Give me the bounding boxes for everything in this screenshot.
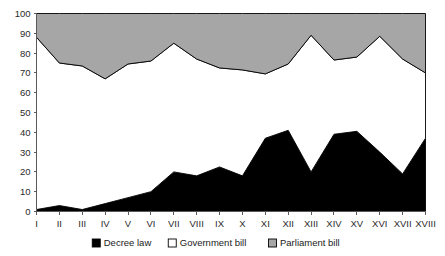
- x-axis-tick-label: XIV: [326, 218, 342, 229]
- stacked-area-chart: 0102030405060708090100 IIIIIIIVVVIVIIVII…: [0, 0, 445, 256]
- x-axis-tick-label: IV: [101, 218, 111, 229]
- y-axis-tick-label: 80: [20, 48, 31, 59]
- legend-label: Government bill: [180, 237, 247, 248]
- legend-swatch: [92, 239, 100, 247]
- y-axis-tick-label: 20: [20, 166, 31, 177]
- x-axis-tick-label: XV: [351, 218, 364, 229]
- x-axis-tick-label: XVII: [394, 218, 412, 229]
- x-axis-tick-label: V: [125, 218, 132, 229]
- x-axis-tick-label: VIII: [190, 218, 204, 229]
- legend-swatch: [269, 239, 277, 247]
- legend-item[interactable]: Government bill: [168, 237, 246, 248]
- x-axis-tick-label: VII: [168, 218, 180, 229]
- y-axis-tick-label: 70: [20, 67, 31, 78]
- x-axis-tick-label: VI: [146, 218, 155, 229]
- legend-swatch: [168, 239, 176, 247]
- x-axis-tick-label: I: [35, 218, 38, 229]
- y-axis-tick-label: 100: [15, 8, 31, 19]
- x-axis-tick-label: XI: [261, 218, 270, 229]
- x-axis-tick-label: X: [239, 218, 246, 229]
- y-axis-tick-label: 0: [25, 206, 30, 217]
- y-axis-tick-label: 60: [20, 87, 31, 98]
- x-axis-tick-label: XII: [282, 218, 294, 229]
- x-axis-tick-label: II: [57, 218, 62, 229]
- legend-label: Parliament bill: [280, 237, 340, 248]
- y-axis-tick-label: 90: [20, 28, 31, 39]
- legend-item[interactable]: Parliament bill: [269, 237, 340, 248]
- x-axis-tick-label: IX: [215, 218, 225, 229]
- plot-area: [37, 14, 426, 212]
- x-axis-tick-label: III: [78, 218, 86, 229]
- x-axis-tick-label: XVIII: [415, 218, 436, 229]
- y-axis-tick-label: 10: [20, 186, 31, 197]
- y-axis-tick-label: 30: [20, 147, 31, 158]
- y-axis-tick-label: 50: [20, 107, 31, 118]
- x-axis-tick-label: XIII: [304, 218, 318, 229]
- legend-label: Decree law: [104, 237, 152, 248]
- y-axis-tick-label: 40: [20, 127, 31, 138]
- chart-container: 0102030405060708090100 IIIIIIIVVVIVIIVII…: [0, 0, 445, 256]
- x-axis-tick-label: XVI: [372, 218, 387, 229]
- chart-legend: Decree lawGovernment billParliament bill: [92, 237, 339, 248]
